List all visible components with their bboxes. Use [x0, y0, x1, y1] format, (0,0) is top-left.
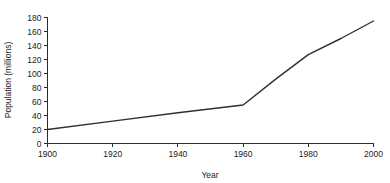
y-tick-label: 0	[37, 139, 42, 149]
population-line-chart: 020406080100120140160180 190019201940196…	[0, 0, 390, 183]
y-tick-label: 180	[27, 13, 41, 23]
y-tick-label: 160	[27, 27, 41, 37]
x-tick-label: 1940	[168, 149, 187, 159]
y-tick-label: 20	[32, 125, 42, 135]
y-axis-title: Population (millions)	[3, 42, 13, 119]
chart-background	[0, 0, 390, 183]
y-tick-label: 120	[27, 55, 41, 65]
x-tick-label: 1900	[38, 149, 57, 159]
chart-canvas: 020406080100120140160180 190019201940196…	[0, 0, 390, 183]
x-tick-label: 1960	[234, 149, 253, 159]
y-tick-label: 60	[32, 97, 42, 107]
x-tick-label: 1920	[103, 149, 122, 159]
x-axis-title: Year	[201, 170, 218, 180]
x-tick-label: 1980	[299, 149, 318, 159]
x-tick-label: 2000	[364, 149, 383, 159]
y-tick-label: 80	[32, 83, 42, 93]
y-tick-label: 140	[27, 41, 41, 51]
y-tick-label: 40	[32, 111, 42, 121]
y-tick-label: 100	[27, 69, 41, 79]
